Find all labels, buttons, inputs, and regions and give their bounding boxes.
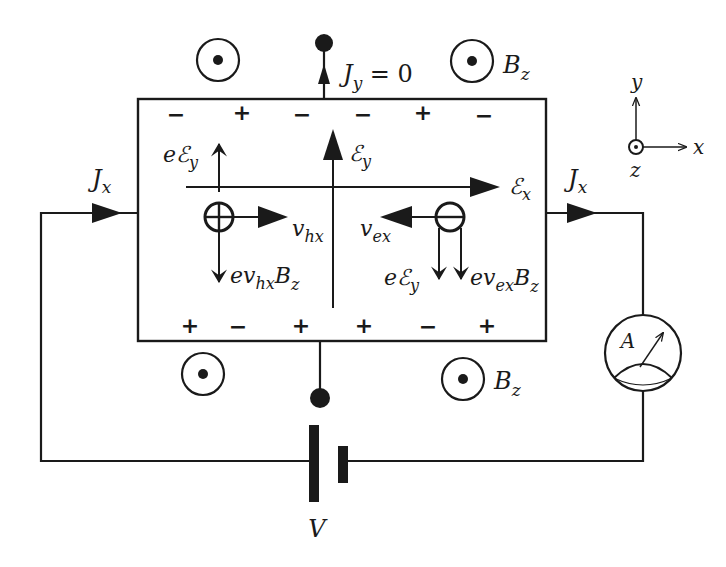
bz-bottom-label: Bz <box>493 367 522 400</box>
hall-effect-diagram: − + − − + − + − + + − + <box>0 0 726 567</box>
bottom-charge: − <box>229 314 247 339</box>
hole-velocity-arrow-icon <box>258 206 288 228</box>
top-charge: − <box>167 102 185 127</box>
top-charge: − <box>475 103 493 128</box>
top-charge: − <box>293 102 311 127</box>
jx-right-arrow-icon <box>567 203 597 223</box>
hole-electric-force-label: eℰy <box>163 142 199 172</box>
bottom-charge: + <box>292 313 310 338</box>
top-charge: − <box>354 102 372 127</box>
jx-right-label: Jx <box>563 165 588 197</box>
jx-left-arrow-icon <box>92 203 122 223</box>
bottom-charge: + <box>181 313 199 338</box>
ammeter-icon <box>605 315 681 391</box>
hole-carrier <box>205 144 288 282</box>
bottom-probe-terminal <box>310 388 330 408</box>
bottom-edge-charges: + − + + − + <box>181 313 496 339</box>
battery-icon <box>309 425 348 502</box>
top-edge-charges: − + − − + − <box>167 100 493 128</box>
bz-symbol-bottom-left <box>182 353 224 395</box>
bz-symbol-bottom-right <box>442 358 484 400</box>
axis-z-label: z <box>629 158 641 182</box>
ammeter-upper-wire <box>546 213 643 315</box>
bz-top-label: Bz <box>502 51 531 84</box>
axis-y-label: y <box>630 70 643 94</box>
coordinate-axes <box>629 98 686 154</box>
semiconductor-sample <box>138 99 546 341</box>
jx-left-label: Jx <box>87 165 112 197</box>
electron-magnetic-force-label: evexBz <box>470 265 539 296</box>
ammeter-label: A <box>619 329 635 353</box>
ey-field-arrow-icon <box>323 129 343 160</box>
top-probe-terminal <box>315 34 333 52</box>
electron-velocity-arrow-icon <box>380 206 412 228</box>
jy-arrow-icon <box>318 64 330 84</box>
left-wire <box>41 213 313 461</box>
hole-magnetic-force-label: evhxBz <box>230 263 300 294</box>
bottom-charge: + <box>355 313 373 338</box>
top-charge: + <box>233 100 251 125</box>
jy-label: Jy = 0 <box>338 60 413 93</box>
circuit-wires <box>41 45 643 461</box>
electron-electric-force-label: eℰy <box>384 265 420 295</box>
top-charge: + <box>414 100 432 125</box>
bottom-charge: + <box>478 313 496 338</box>
ey-field-label: ℰy <box>349 141 372 171</box>
battery-label: V <box>308 515 328 543</box>
ex-field-label: ℰx <box>509 174 531 204</box>
right-wire <box>346 391 643 461</box>
axis-x-label: x <box>693 135 704 159</box>
ex-field-arrow-icon <box>470 177 500 197</box>
electron-velocity-label: vex <box>360 216 391 246</box>
bottom-charge: − <box>419 314 437 339</box>
bz-symbol-top-right <box>451 40 493 82</box>
hole-velocity-label: vhx <box>292 216 324 246</box>
bz-symbol-top-left <box>197 39 239 81</box>
